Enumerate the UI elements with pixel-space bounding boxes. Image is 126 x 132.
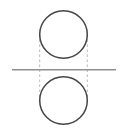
top-circle bbox=[40, 11, 88, 59]
geometry-diagram bbox=[0, 0, 126, 132]
bottom-circle bbox=[40, 77, 88, 125]
diagram-canvas bbox=[0, 0, 126, 132]
